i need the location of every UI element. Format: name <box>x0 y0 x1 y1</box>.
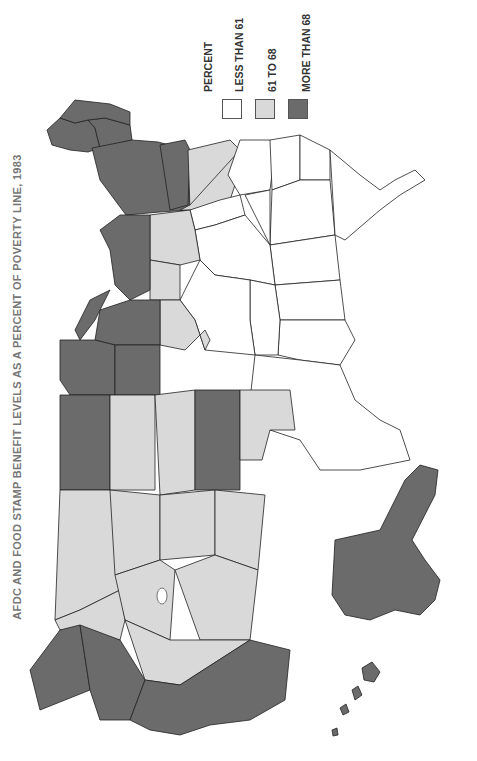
state-arizona <box>175 555 258 640</box>
state-louisiana <box>278 320 355 365</box>
state-mississippi <box>275 280 345 320</box>
state-alaska <box>332 465 440 620</box>
state-georgia <box>270 180 335 245</box>
state-washington <box>30 625 90 710</box>
state-wisconsin <box>95 300 160 345</box>
state-nebraska <box>155 390 195 495</box>
state-hawaii-oahu <box>340 704 349 715</box>
state-hawaii-maui <box>352 686 362 700</box>
us-choropleth-map <box>0 0 477 761</box>
state-south-dakota <box>110 395 155 490</box>
state-north-dakota <box>60 395 110 490</box>
state-colorado <box>160 490 215 560</box>
state-hawaii-kauai <box>332 728 338 736</box>
state-indiana <box>150 260 180 300</box>
state-florida <box>330 150 425 240</box>
state-kansas <box>195 390 240 490</box>
state-arkansas <box>250 280 280 355</box>
state-iowa <box>115 345 160 395</box>
state-minnesota <box>60 340 115 395</box>
state-south-carolina <box>300 135 330 180</box>
great-salt-lake <box>157 588 167 604</box>
state-michigan <box>100 215 150 300</box>
state-hawaii-big <box>362 662 380 682</box>
state-oklahoma <box>240 390 295 460</box>
